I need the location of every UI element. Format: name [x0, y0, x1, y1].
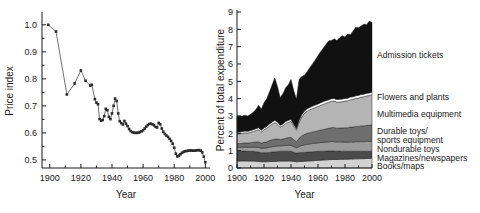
- svg-text:0.8: 0.8: [24, 74, 37, 84]
- svg-text:1.0: 1.0: [24, 20, 37, 30]
- data-point: [112, 105, 115, 108]
- svg-text:2000: 2000: [195, 173, 215, 183]
- svg-text:5: 5: [228, 77, 233, 87]
- svg-text:7: 7: [228, 42, 233, 52]
- series-callout-label: Admission tickets: [377, 50, 443, 60]
- svg-text:1: 1: [228, 146, 233, 156]
- expenditure-stacked-area-chart: 0123456789190019201940196019802000YearPe…: [215, 0, 480, 213]
- data-point: [94, 98, 97, 101]
- x-axis-title: Year: [116, 189, 137, 200]
- price-index-line: [48, 25, 205, 163]
- data-point: [106, 109, 109, 112]
- data-point: [103, 115, 106, 118]
- svg-text:8: 8: [228, 25, 233, 35]
- price-index-chart: 0.50.60.70.80.91.01900192019401960198020…: [0, 0, 215, 213]
- svg-text:9: 9: [228, 7, 233, 17]
- data-point: [97, 103, 100, 106]
- svg-text:1980: 1980: [164, 173, 184, 183]
- svg-text:1960: 1960: [133, 173, 153, 183]
- svg-text:2000: 2000: [362, 173, 382, 183]
- series-callout-label: Flowers and plants: [377, 92, 449, 102]
- data-point: [84, 79, 87, 82]
- svg-text:1920: 1920: [71, 173, 91, 183]
- data-point: [90, 83, 93, 86]
- data-point: [173, 146, 176, 149]
- price-index-panel: 0.50.60.70.80.91.01900192019401960198020…: [0, 0, 215, 213]
- svg-text:6: 6: [228, 59, 233, 69]
- svg-text:0: 0: [228, 163, 233, 173]
- figure-container: 0.50.60.70.80.91.01900192019401960198020…: [0, 0, 480, 213]
- svg-text:1980: 1980: [335, 173, 355, 183]
- svg-text:0.7: 0.7: [24, 101, 37, 111]
- data-point: [174, 152, 177, 155]
- svg-text:2: 2: [228, 129, 233, 139]
- series-callout-label: Multimedia equipment: [377, 109, 462, 119]
- data-point: [117, 112, 120, 115]
- data-point: [122, 123, 125, 126]
- data-point: [159, 123, 162, 126]
- svg-text:1940: 1940: [281, 173, 301, 183]
- svg-text:1920: 1920: [254, 173, 274, 183]
- y-axis-title: Price index: [4, 66, 15, 115]
- data-point: [125, 122, 128, 125]
- expenditure-panel: 0123456789190019201940196019802000YearPe…: [215, 0, 480, 213]
- svg-text:1900: 1900: [227, 173, 247, 183]
- data-point: [115, 100, 118, 103]
- svg-text:1960: 1960: [308, 173, 328, 183]
- svg-text:1940: 1940: [102, 173, 122, 183]
- svg-text:0.5: 0.5: [24, 155, 37, 165]
- svg-text:0.6: 0.6: [24, 128, 37, 138]
- data-point: [201, 151, 204, 154]
- data-point: [123, 120, 126, 123]
- data-point: [114, 97, 117, 100]
- left-axis-spines: [42, 12, 210, 168]
- svg-text:3: 3: [228, 111, 233, 121]
- data-point: [156, 126, 159, 129]
- svg-text:4: 4: [228, 94, 233, 104]
- data-point: [171, 142, 174, 145]
- data-point: [73, 82, 76, 85]
- y-axis-title: Percent of total expenditure: [215, 28, 226, 151]
- series-callout-label: Books/maps: [377, 161, 424, 171]
- data-point: [80, 69, 83, 72]
- data-point: [204, 161, 207, 164]
- data-point: [101, 119, 104, 122]
- data-point: [66, 93, 69, 96]
- svg-text:0.9: 0.9: [24, 47, 37, 57]
- data-point: [47, 24, 50, 27]
- x-axis-title: Year: [294, 189, 315, 200]
- data-point: [202, 155, 205, 158]
- data-point: [170, 140, 173, 143]
- data-point: [55, 30, 58, 33]
- data-point: [111, 112, 114, 115]
- svg-text:1900: 1900: [40, 173, 60, 183]
- data-point: [126, 125, 129, 128]
- data-point: [160, 127, 163, 130]
- data-point: [109, 118, 112, 121]
